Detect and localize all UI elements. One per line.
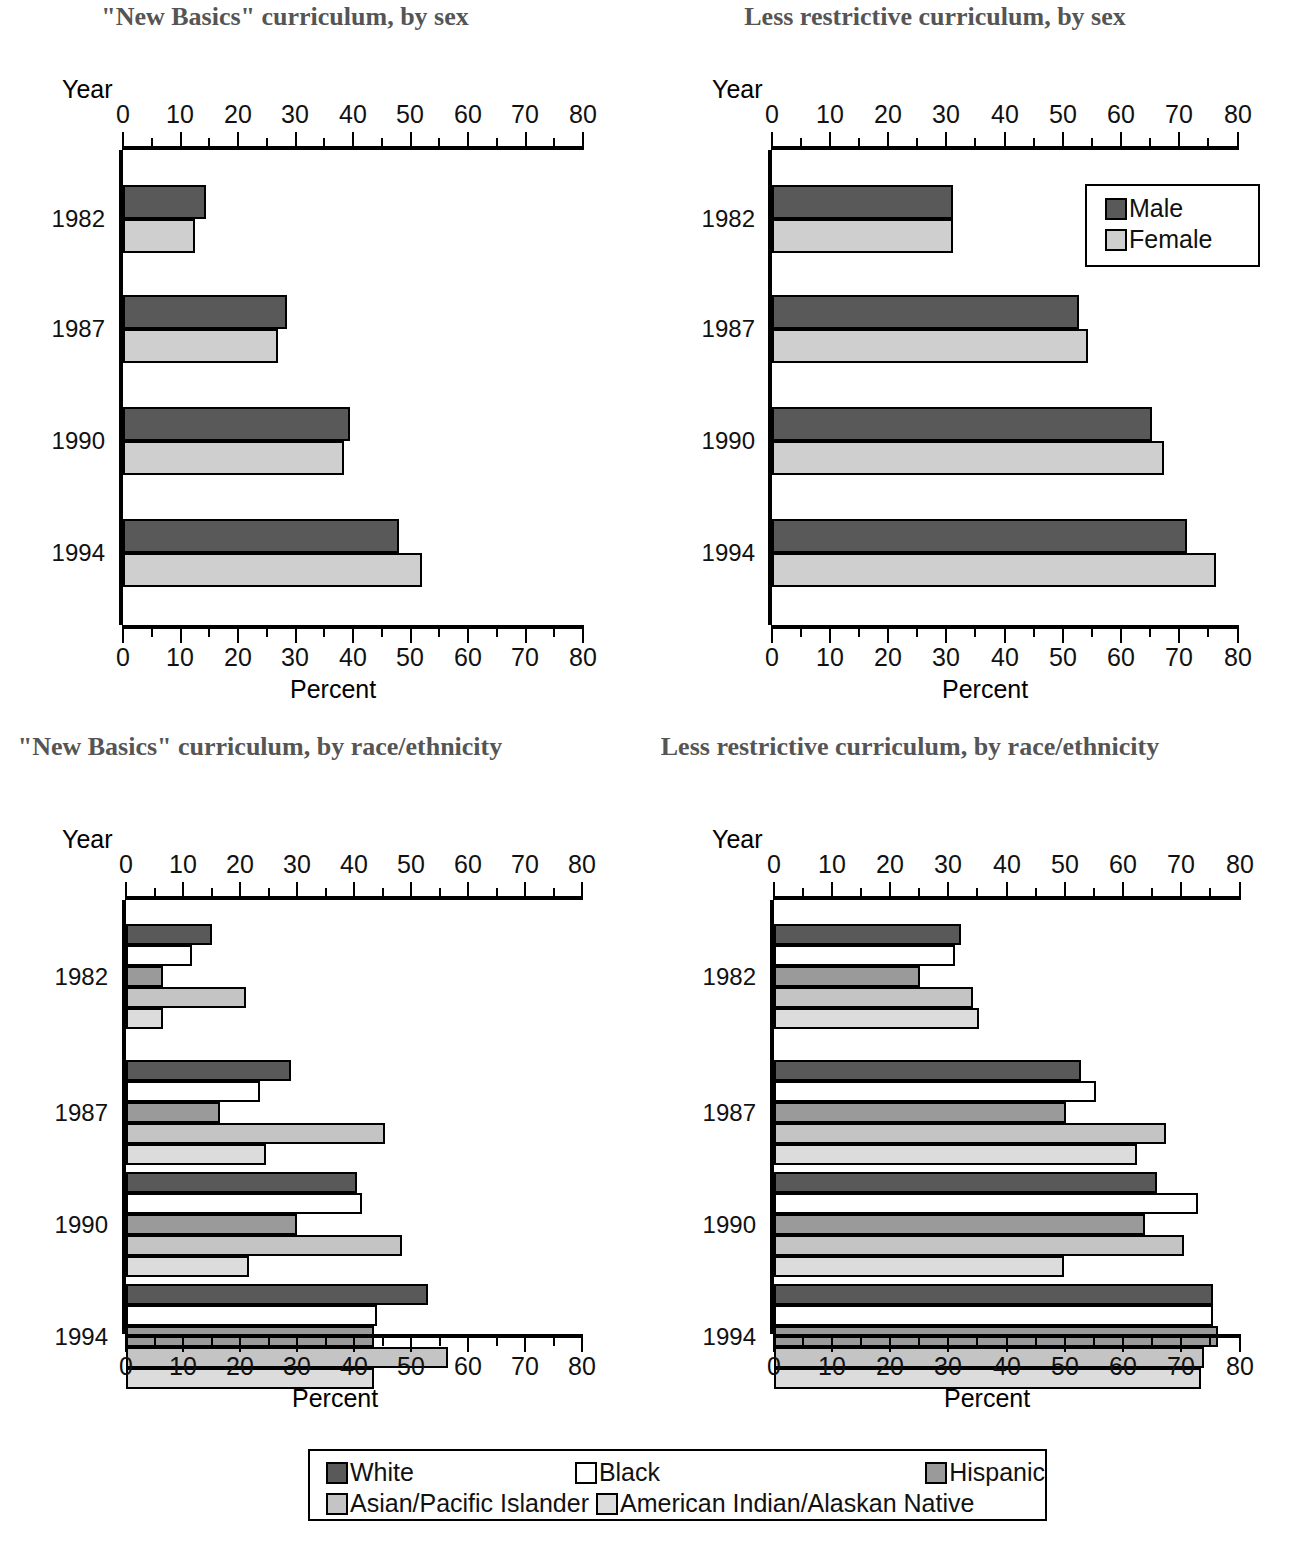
bar-male-1987 <box>123 295 287 329</box>
category-label-1990: 1990 <box>0 427 105 455</box>
bar-black-1990 <box>774 1193 1198 1214</box>
legend-label: Black <box>599 1458 660 1487</box>
tickmark-major <box>1064 882 1066 896</box>
tickmark-major <box>1006 882 1008 896</box>
bottom-axis: 0 10 20 30 40 50 60 70 80 Percent <box>650 1334 1313 1424</box>
tickmark-major <box>1120 132 1122 146</box>
tickmark-major <box>945 132 947 146</box>
category-label-1982: 1982 <box>0 963 108 991</box>
tickmark-minor <box>1033 138 1035 146</box>
tickmark-major <box>581 1338 583 1352</box>
tickmark-major <box>125 882 127 896</box>
tickmark-major <box>467 882 469 896</box>
tick-70: 70 <box>511 100 539 129</box>
tickmark-minor <box>916 138 918 146</box>
tick-30: 30 <box>283 850 311 879</box>
tick-60: 60 <box>454 643 482 672</box>
panel-new-basics-by-race: "New Basics" curriculum, by race/ethnici… <box>0 730 656 1410</box>
tick-20: 20 <box>226 850 254 879</box>
tickmark-major <box>296 882 298 896</box>
tickmark-major <box>1239 1338 1241 1352</box>
tick-40: 40 <box>340 1352 368 1381</box>
tick-10: 10 <box>166 100 194 129</box>
bar-hispanic-1990 <box>126 1214 297 1235</box>
bar-white-1994 <box>774 1284 1213 1305</box>
sex-legend: Male Female <box>1085 184 1260 267</box>
bar-amerind-1982 <box>126 1008 163 1029</box>
tickmark-minor <box>1093 1338 1095 1346</box>
tick-60: 60 <box>454 100 482 129</box>
tick-0: 0 <box>767 1352 781 1381</box>
tick-0: 0 <box>119 1352 133 1381</box>
tickmark-minor <box>860 888 862 896</box>
tickmark-minor <box>976 888 978 896</box>
tick-50: 50 <box>1049 643 1077 672</box>
tickmark-minor <box>553 1338 555 1346</box>
tick-0: 0 <box>767 850 781 879</box>
female-swatch-icon <box>1105 229 1127 251</box>
tickmark-major <box>1120 629 1122 643</box>
tickmark-minor <box>1151 888 1153 896</box>
tick-70: 70 <box>511 1352 539 1381</box>
tickmark-major <box>1122 1338 1124 1352</box>
category-label-1987: 1987 <box>0 1099 108 1127</box>
bar-white-1982 <box>126 924 212 945</box>
bar-hispanic-1990 <box>774 1214 1145 1235</box>
x-axis-label: Percent <box>292 1384 378 1413</box>
tickmark-minor <box>438 629 440 637</box>
tickmark-major <box>467 132 469 146</box>
tick-50: 50 <box>1051 850 1079 879</box>
legend-label: Male <box>1129 194 1183 223</box>
tickmark-major <box>1006 1338 1008 1352</box>
tick-70: 70 <box>511 850 539 879</box>
legend-item-black: Black <box>575 1458 925 1487</box>
tickmark-minor <box>268 888 270 896</box>
bar-amerind-1982 <box>774 1008 979 1029</box>
tickmark-major <box>1178 629 1180 643</box>
category-label-1987: 1987 <box>650 315 755 343</box>
bar-asian-1982 <box>126 987 246 1008</box>
legend-label: Hispanic <box>949 1458 1045 1487</box>
bottom-axis: 0 10 20 30 40 50 60 70 80 Percent <box>0 625 656 710</box>
plot-area <box>774 900 1242 1334</box>
tickmark-minor <box>553 629 555 637</box>
tick-80: 80 <box>1224 100 1252 129</box>
tickmark-minor <box>553 138 555 146</box>
tickmark-minor <box>1091 138 1093 146</box>
white-swatch-icon <box>326 1462 348 1484</box>
tickmark-major <box>180 629 182 643</box>
tickmark-major <box>773 882 775 896</box>
tickmark-minor <box>553 888 555 896</box>
tickmark-major <box>410 882 412 896</box>
tickmark-minor <box>1035 888 1037 896</box>
tick-70: 70 <box>1165 643 1193 672</box>
tickmark-major <box>410 629 412 643</box>
tick-60: 60 <box>1109 1352 1137 1381</box>
tickmark-major <box>182 1338 184 1352</box>
tickmark-minor <box>266 629 268 637</box>
tick-40: 40 <box>991 100 1019 129</box>
tick-60: 60 <box>454 850 482 879</box>
tick-20: 20 <box>224 100 252 129</box>
bar-male-1994 <box>123 519 399 553</box>
bar-female-1990 <box>772 441 1164 475</box>
tickmark-major <box>1064 1338 1066 1352</box>
tick-50: 50 <box>396 100 424 129</box>
bar-white-1987 <box>126 1060 291 1081</box>
tick-20: 20 <box>874 100 902 129</box>
tick-60: 60 <box>1109 850 1137 879</box>
tick-40: 40 <box>340 850 368 879</box>
tickmark-major <box>410 1338 412 1352</box>
tick-80: 80 <box>568 1352 596 1381</box>
tick-50: 50 <box>1049 100 1077 129</box>
tickmark-major <box>467 629 469 643</box>
legend-item-female: Female <box>1105 225 1258 254</box>
bar-male-1994 <box>772 519 1187 553</box>
tick-70: 70 <box>511 643 539 672</box>
x-axis-label: Percent <box>944 1384 1030 1413</box>
bar-male-1990 <box>772 407 1152 441</box>
tick-70: 70 <box>1167 850 1195 879</box>
tick-60: 60 <box>1107 643 1135 672</box>
tickmark-minor <box>496 629 498 637</box>
tick-10: 10 <box>816 643 844 672</box>
